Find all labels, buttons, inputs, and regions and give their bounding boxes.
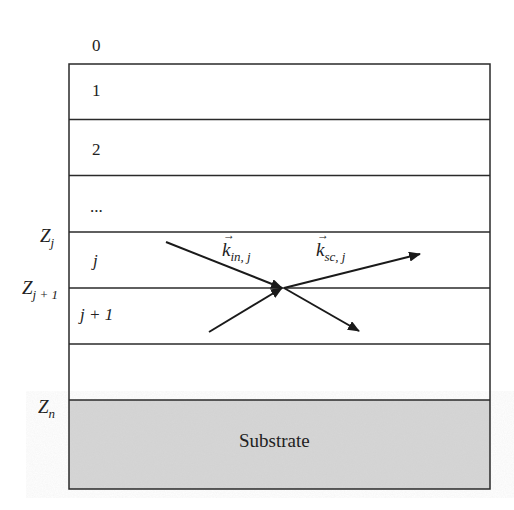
layer-label-1: 1	[92, 82, 101, 99]
substrate-label: Substrate	[239, 430, 310, 452]
layer-label-j: j	[93, 252, 98, 269]
scattered-vector-label: ksc, j	[316, 240, 345, 263]
transmitted-scattered-arrow	[284, 288, 359, 331]
interface-label-zj: Zj	[40, 226, 54, 249]
interface-label-zn: Zn	[38, 397, 55, 420]
scattered-wave-vector-arrow	[284, 254, 420, 288]
reflected-incident-arrow	[209, 288, 282, 332]
layer-label-ellipsis: ...	[90, 198, 103, 215]
interface-lines	[69, 120, 490, 401]
layer-label-2: 2	[92, 141, 101, 158]
layer-label-0: 0	[92, 37, 101, 54]
layer-label-j-plus-1: j + 1	[80, 306, 113, 323]
incident-vector-label: kin, j	[222, 240, 251, 263]
interface-label-zj-plus-1: Zj + 1	[22, 278, 58, 301]
